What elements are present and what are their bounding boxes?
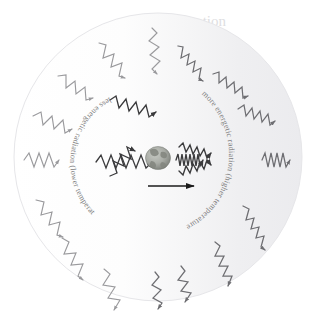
earth-globe	[146, 147, 171, 170]
diagram-canvas: ation of the niversity s collected on co…	[0, 0, 315, 314]
doppler-diagram-figure: ation of the niversity s collected on co…	[0, 0, 315, 314]
